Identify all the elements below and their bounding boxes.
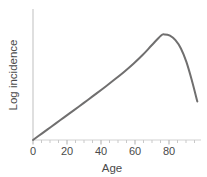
x-tick-label-60: 60 xyxy=(129,145,141,157)
x-axis-title: Age xyxy=(102,162,122,174)
line-chart: 0 20 40 60 80 Age Log incidence xyxy=(0,0,207,177)
x-axis-tick-labels: 0 20 40 60 80 xyxy=(30,145,175,157)
x-tick-label-40: 40 xyxy=(95,145,107,157)
x-axis-major-ticks xyxy=(33,140,169,145)
incidence-curve xyxy=(33,34,197,140)
chart-figure: 0 20 40 60 80 Age Log incidence xyxy=(0,0,207,177)
x-tick-label-80: 80 xyxy=(163,145,175,157)
y-axis-title: Log incidence xyxy=(7,40,19,111)
axis-lines xyxy=(33,9,201,140)
x-tick-label-20: 20 xyxy=(61,145,73,157)
x-tick-label-0: 0 xyxy=(30,145,36,157)
